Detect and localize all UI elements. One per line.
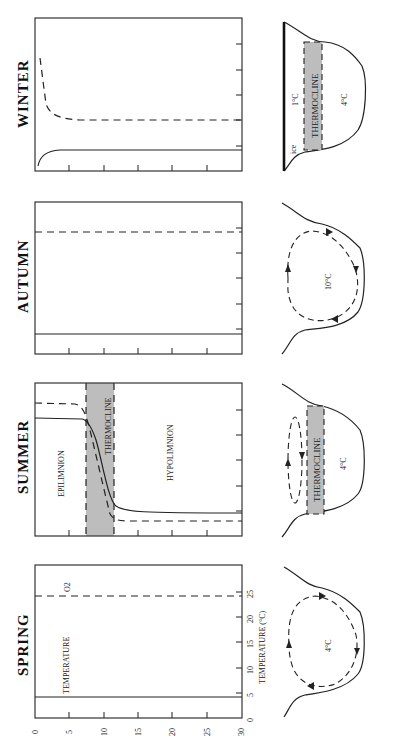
winter-temperature-line — [38, 150, 242, 166]
spring-circulation-loop — [289, 596, 357, 686]
winter-depth-ticks — [69, 165, 207, 171]
summer-temperature-line — [35, 418, 242, 513]
autumn-depth-ticks — [69, 348, 207, 354]
summer-arrow-icon — [299, 452, 305, 460]
temperature-axis-labels: 0 5 10 15 20 25 — [246, 590, 255, 722]
svg-text:30: 30 — [237, 728, 246, 736]
autumn-chart-frame — [35, 202, 242, 354]
summer-o2-line — [35, 403, 242, 521]
summer-arrow-icon — [285, 458, 291, 466]
summer-epilimnion-label: EPILIMNION — [57, 450, 66, 497]
svg-text:0: 0 — [31, 730, 40, 734]
svg-text:10: 10 — [246, 666, 255, 674]
spring-temp-ticks — [236, 592, 242, 693]
season-title-spring: SPRING — [15, 613, 31, 676]
winter-chart-frame — [35, 18, 242, 171]
summer-lake-thermocline-label: THERMOCLINE — [312, 437, 322, 502]
season-title-autumn: AUTUMN — [15, 240, 31, 314]
winter-o2-line — [40, 58, 242, 120]
svg-text:0: 0 — [246, 718, 255, 722]
winter-surface-temp-label: 1°C — [291, 93, 300, 106]
depth-axis-labels: 0 5 10 15 20 25 30 — [31, 728, 246, 736]
autumn-arrow-icon — [326, 228, 333, 236]
summer-epilimnion-circulation — [288, 417, 302, 503]
autumn-arrow-icon — [331, 315, 338, 323]
autumn-arrow-icon — [353, 266, 359, 273]
winter-panel: WINTER THERMOCLINE ice 1°C 4°C — [15, 18, 365, 171]
winter-temp-ticks — [236, 44, 242, 146]
svg-text:10: 10 — [100, 728, 109, 736]
svg-text:20: 20 — [246, 615, 255, 623]
figure-canvas: WINTER THERMOCLINE ice 1°C 4°C AUTU — [0, 0, 397, 738]
svg-text:25: 25 — [203, 728, 212, 736]
temperature-axis-title: TEMPERATURE (°C) — [258, 610, 267, 684]
autumn-panel: AUTUMN 10°C — [15, 202, 364, 354]
autumn-temp-ticks — [236, 228, 242, 329]
season-title-winter: WINTER — [15, 59, 31, 128]
summer-temp-ticks — [236, 410, 242, 511]
summer-hypolimnion-label: HYPOLIMNION — [166, 424, 175, 481]
spring-arrow-icon — [319, 592, 326, 600]
spring-arrow-icon — [354, 648, 360, 655]
spring-arrow-icon — [286, 640, 292, 648]
autumn-lake-temp-label: 10°C — [324, 273, 333, 290]
autumn-arrow-icon — [285, 264, 291, 272]
season-title-summer: SUMMER — [15, 420, 31, 494]
spring-arrow-icon — [307, 682, 314, 690]
winter-thermocline-label: THERMOCLINE — [310, 73, 320, 138]
spring-lake-temp-label: 4°C — [324, 639, 333, 652]
spring-o2-label: O2 — [63, 582, 72, 592]
winter-ice-label: ice — [289, 144, 298, 154]
winter-bottom-temp-label: 4°C — [340, 93, 349, 106]
svg-text:5: 5 — [65, 730, 74, 734]
summer-panel: SUMMER EPILIMNION THERMOCLINE HYPOLIMNIO… — [15, 383, 364, 537]
spring-panel: SPRING 0 5 10 15 20 25 30 0 — [15, 565, 364, 736]
spring-depth-ticks — [69, 712, 207, 718]
svg-text:20: 20 — [168, 728, 177, 736]
svg-text:15: 15 — [134, 728, 143, 736]
spring-temperature-label: TEMPERATURE — [62, 637, 71, 694]
svg-text:5: 5 — [246, 693, 255, 697]
summer-lake-bottom-temp-label: 4°C — [339, 457, 348, 470]
summer-thermocline-label: THERMOCLINE — [104, 398, 113, 455]
svg-text:15: 15 — [246, 640, 255, 648]
autumn-circulation-loop — [288, 231, 358, 321]
svg-text:25: 25 — [246, 590, 255, 598]
